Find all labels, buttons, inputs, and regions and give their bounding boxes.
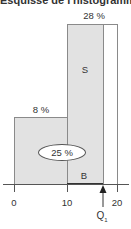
tick-20: [117, 184, 118, 192]
ellipse-25pct: 25 %: [38, 144, 86, 161]
bar-0-10-label: 8 %: [24, 104, 58, 115]
tick-0: [14, 184, 15, 192]
label-B: B: [78, 170, 90, 181]
tick-10: [67, 184, 68, 192]
chart-title: Esquisse de l'histogramme: [0, 0, 131, 6]
tick-label-0: 0: [6, 197, 22, 208]
x-axis: [3, 184, 129, 185]
bar-10-20-shaded: [67, 24, 104, 185]
label-S: S: [79, 64, 91, 75]
q1-sub: 1: [104, 217, 107, 223]
bar-10-20-label: 28 %: [74, 10, 114, 21]
tick-label-10: 10: [59, 197, 75, 208]
tick-label-20: 20: [109, 197, 125, 208]
q1-arrow-icon: [97, 185, 109, 207]
ellipse-label: 25 %: [51, 147, 73, 158]
q1-label: Q1: [92, 210, 112, 223]
